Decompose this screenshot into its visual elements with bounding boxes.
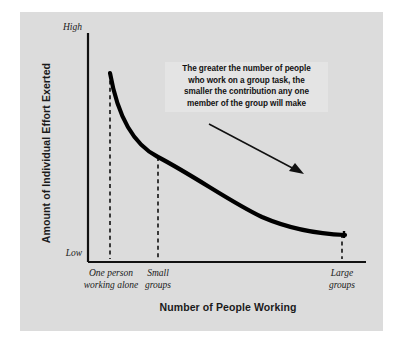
x-tick-small-line1: Small [127,268,189,280]
y-axis-tick-low: Low [28,248,82,258]
annotation-line-1: The greater the number of people [165,63,328,75]
x-axis-tick-small-groups: Small groups [127,268,189,291]
y-axis-tick-high: High [28,22,82,32]
chart-graphics [0,0,402,349]
annotation-arrow [209,124,304,174]
figure-root: The greater the number of people who wor… [0,0,402,349]
annotation-line-3: smaller the contribution any one [165,86,328,98]
x-tick-large-line1: Large [308,268,376,280]
x-axis-tick-large-groups: Large groups [308,268,376,291]
annotation-callout-text: The greater the number of people who wor… [165,63,328,109]
y-axis-title: Amount of Individual Effort Exerted [40,43,52,263]
annotation-line-2: who work on a group task, the [165,75,328,87]
x-axis-title: Number of People Working [88,301,368,313]
x-tick-large-line2: groups [308,280,376,292]
x-tick-small-line2: groups [127,280,189,292]
annotation-line-4: member of the group will make [165,98,328,110]
